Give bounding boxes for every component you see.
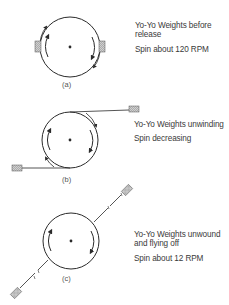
panel-c-figure xyxy=(10,184,132,298)
yo-yo-weight-right xyxy=(121,184,132,195)
yo-yo-weight-right xyxy=(129,106,139,112)
spin-b: Spin decreasing xyxy=(134,134,191,144)
spin-arrow-icon xyxy=(92,37,94,58)
caption-a: (a) xyxy=(62,80,71,89)
caption-b: (b) xyxy=(62,175,71,184)
title-b: Yo-Yo Weights unwinding xyxy=(134,120,224,130)
caption-c: (c) xyxy=(62,274,71,283)
spin-axis-dot-b xyxy=(69,139,72,142)
yo-yo-weight-left xyxy=(10,287,21,298)
panel-a-figure xyxy=(35,17,105,77)
spin-axis-dot-a xyxy=(69,46,72,49)
title-a-line2: release xyxy=(135,30,161,40)
yo-yo-weight-left xyxy=(12,165,22,171)
spin-arrow-icon xyxy=(46,36,48,57)
yo-yo-weight-left xyxy=(35,41,41,52)
spin-axis-dot-c xyxy=(70,240,73,243)
title-c-line2: and flying off xyxy=(134,239,179,249)
spin-a: Spin about 120 RPM xyxy=(135,45,209,55)
spin-c: Spin about 12 RPM xyxy=(134,254,203,264)
panel-b-figure xyxy=(12,106,139,171)
yo-yo-weight-right xyxy=(99,41,105,52)
